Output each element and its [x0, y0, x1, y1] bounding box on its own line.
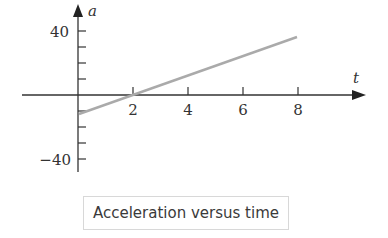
x-tick-label-2: 2	[128, 101, 138, 119]
x-axis-label: t	[353, 69, 360, 87]
y-tick-label-40: 40	[50, 23, 69, 41]
x-tick-label-4: 4	[183, 101, 193, 119]
chart-caption: Acceleration versus time	[83, 196, 289, 230]
x-axis-arrow-icon	[352, 90, 366, 100]
x-ticks	[133, 87, 298, 95]
y-tick-label-neg40: −40	[39, 151, 71, 169]
x-tick-label-6: 6	[238, 101, 248, 119]
x-tick-label-8: 8	[293, 101, 303, 119]
y-axis-label: a	[88, 2, 97, 20]
y-axis-arrow-icon	[73, 4, 83, 17]
